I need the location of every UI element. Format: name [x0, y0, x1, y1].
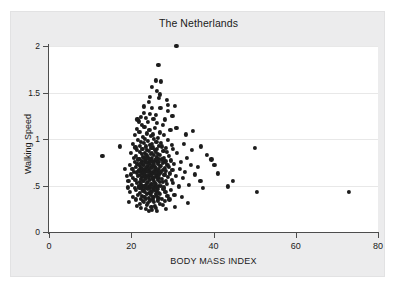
scatter-point: [158, 106, 162, 110]
scatter-point: [174, 174, 178, 178]
scatter-point: [160, 123, 164, 127]
scatter-point: [183, 169, 187, 173]
scatter-point: [226, 184, 230, 188]
x-tick-mark: [378, 233, 379, 238]
scatter-point: [164, 207, 168, 211]
y-axis-line: [48, 44, 49, 234]
scatter-point: [166, 102, 170, 106]
scatter-point: [150, 106, 154, 110]
scatter-point: [169, 188, 173, 192]
scatter-point: [150, 85, 154, 89]
scatter-point: [174, 126, 178, 130]
scatter-point: [180, 195, 184, 199]
scatter-point: [204, 153, 208, 157]
y-tick-mark: [43, 139, 48, 140]
scatter-point: [125, 174, 129, 178]
scatter-point: [182, 142, 186, 146]
scatter-point: [155, 121, 159, 125]
plot-area: [49, 46, 378, 232]
scatter-point: [167, 197, 171, 201]
scatter-point: [129, 151, 133, 155]
scatter-point: [158, 92, 162, 96]
scatter-point: [128, 190, 132, 194]
scatter-point: [189, 163, 193, 167]
scatter-point: [127, 200, 131, 204]
scatter-point: [165, 98, 169, 102]
scatter-point: [178, 167, 182, 171]
scatter-point: [123, 167, 127, 171]
scatter-point: [179, 160, 183, 164]
scatter-point: [191, 129, 195, 133]
x-tick-label: 0: [34, 241, 64, 251]
scatter-point: [162, 133, 166, 137]
scatter-point: [142, 111, 146, 115]
scatter-point: [255, 190, 259, 194]
x-tick-mark: [49, 233, 50, 238]
gridline-y: [49, 46, 378, 47]
y-tick-label: 2: [24, 41, 40, 51]
y-tick-mark: [43, 46, 48, 47]
scatter-point: [137, 129, 141, 133]
scatter-point: [146, 120, 150, 124]
scatter-point: [169, 142, 173, 146]
scatter-point: [199, 144, 203, 148]
x-tick-label: 60: [281, 241, 311, 251]
scatter-point: [172, 193, 176, 197]
scatter-point: [171, 181, 175, 185]
scatter-point: [134, 197, 138, 201]
scatter-point: [157, 96, 161, 100]
scatter-point: [142, 125, 146, 129]
scatter-point: [212, 163, 216, 167]
y-tick-mark: [43, 93, 48, 94]
scatter-point: [173, 103, 177, 107]
x-tick-label: 40: [199, 241, 229, 251]
scatter-point: [166, 109, 170, 113]
scatter-point: [125, 185, 129, 189]
scatter-point: [175, 151, 179, 155]
chart-title: The Netherlands: [0, 17, 397, 29]
scatter-point: [155, 209, 159, 213]
gridline-y: [49, 93, 378, 94]
scatter-point: [118, 144, 122, 148]
gridline-y: [49, 186, 378, 187]
scatter-point: [171, 147, 175, 151]
scatter-point: [253, 146, 257, 150]
y-tick-label: 0: [24, 227, 40, 237]
y-axis-title: Walking Speed: [23, 94, 33, 194]
scatter-point: [148, 112, 152, 116]
gridline-y: [49, 139, 378, 140]
scatter-point: [153, 126, 157, 130]
scatter-point: [148, 95, 152, 99]
scatter-point: [173, 205, 177, 209]
x-tick-mark: [131, 233, 132, 238]
scatter-point: [347, 190, 351, 194]
scatter-point: [166, 138, 170, 142]
scatter-point: [209, 157, 213, 161]
x-tick-label: 20: [116, 241, 146, 251]
scatter-point: [146, 100, 150, 104]
scatter-point: [201, 186, 205, 190]
scatter-point: [174, 44, 178, 48]
scatter-point: [196, 165, 200, 169]
scatter-point: [185, 156, 189, 160]
scatter-point: [144, 116, 148, 120]
scatter-plot-screenshot: The Netherlands 0.511.52 020406080 Walki…: [0, 0, 397, 287]
scatter-point: [172, 162, 176, 166]
scatter-point: [159, 79, 163, 83]
scatter-point: [100, 154, 104, 158]
scatter-point: [170, 114, 174, 118]
x-axis-title: BODY MASS INDEX: [49, 256, 378, 266]
scatter-point: [190, 148, 194, 152]
scatter-point: [183, 132, 187, 136]
scatter-point: [186, 201, 190, 205]
scatter-point: [141, 104, 145, 108]
scatter-point: [151, 116, 155, 120]
scatter-point: [181, 176, 185, 180]
scatter-point: [163, 117, 167, 121]
scatter-point: [198, 179, 202, 183]
scatter-point: [147, 209, 151, 213]
y-tick-mark: [43, 232, 48, 233]
scatter-point: [154, 78, 158, 82]
scatter-point: [168, 128, 172, 132]
scatter-point: [216, 171, 220, 175]
